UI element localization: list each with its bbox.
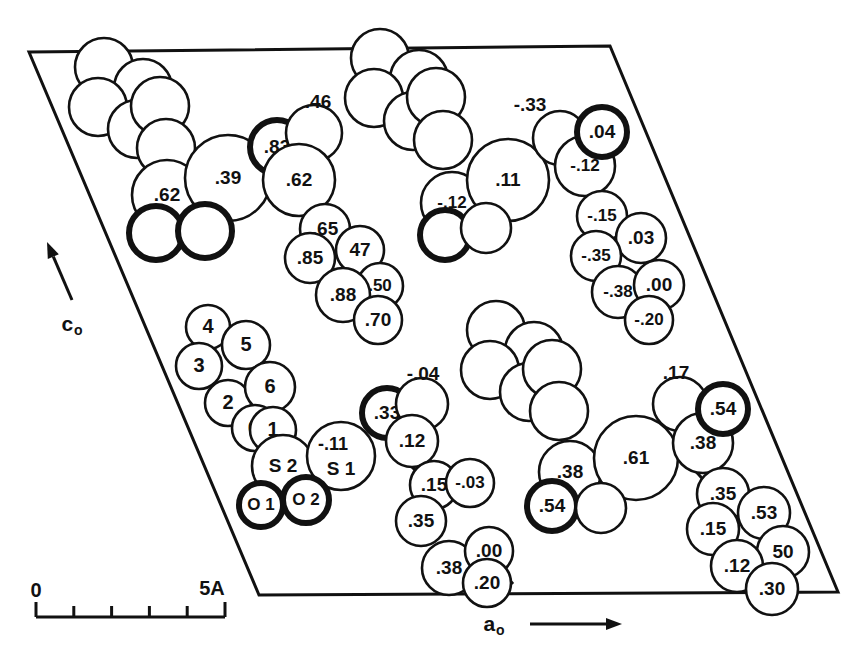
- atom-label: .03: [628, 227, 654, 248]
- atom-label: S 1: [327, 458, 356, 479]
- atom-label: .62: [154, 184, 180, 205]
- atom-label: .04: [589, 121, 616, 142]
- atom-label: .38: [557, 461, 583, 482]
- atom-a30: .04: [577, 107, 627, 157]
- atom-a41: 3: [176, 343, 222, 389]
- atom-label: O 2: [292, 490, 319, 509]
- atom-a38: -.20: [625, 296, 673, 344]
- a-axis-label: ao: [483, 612, 504, 638]
- atom-a09: [129, 206, 183, 260]
- atom-label: 6: [264, 375, 275, 397]
- atom-circle: [129, 206, 183, 260]
- atom-a10: [178, 204, 232, 258]
- atom-a77: .30: [746, 563, 798, 615]
- figure-root: .62.39.83.62.65.8547.50.88.70-.12.11-.12…: [0, 0, 864, 666]
- atom-circle: [576, 483, 626, 533]
- atom-label: .15: [700, 518, 727, 539]
- atom-label: -.15: [587, 206, 616, 225]
- atom-a49: O 2: [283, 477, 329, 523]
- atom-label: .62: [286, 169, 312, 190]
- atom-label: .38: [436, 557, 462, 578]
- atom-label: .61: [623, 447, 650, 468]
- atom-label: .88: [330, 284, 356, 305]
- atom-circle: [414, 111, 472, 169]
- atom-a71: [576, 483, 626, 533]
- atom-label: -.35: [581, 246, 610, 265]
- atom-label: S 2: [269, 455, 298, 476]
- atom-label: 5: [240, 333, 251, 355]
- height-label: -.04: [407, 363, 440, 384]
- atom-label: .15: [421, 474, 448, 495]
- atom-a25: [414, 111, 472, 169]
- atom-label: .35: [408, 510, 435, 531]
- a-axis-arrow: [530, 618, 622, 630]
- atom-circles: .62.39.83.62.65.8547.50.88.70-.12.11-.12…: [69, 29, 809, 615]
- atom-label: 47: [349, 239, 370, 260]
- height-label: .46: [305, 91, 331, 112]
- atom-circle: [461, 203, 511, 253]
- atom-a48: O 1: [239, 483, 283, 527]
- atom-label: .85: [297, 247, 324, 268]
- atom-label: .70: [365, 309, 391, 330]
- atom-label: -.20: [634, 310, 663, 329]
- atom-circle: [178, 204, 232, 258]
- atom-label: .53: [751, 502, 777, 523]
- atom-a54: -.03: [446, 459, 494, 507]
- atom-label: .38: [690, 432, 716, 453]
- atom-label: .12: [724, 555, 750, 576]
- c-axis-label: co: [61, 312, 82, 338]
- atom-label: 2: [222, 391, 233, 413]
- atom-label: O 1: [247, 495, 274, 514]
- atom-a58: .20: [463, 559, 511, 607]
- atom-label: -.12: [570, 156, 599, 175]
- atom-label: .50: [368, 276, 392, 295]
- atom-a55: .35: [396, 496, 446, 546]
- atom-a70: .54: [527, 481, 577, 531]
- atom-label: 3: [193, 354, 204, 376]
- atom-label: .11: [495, 169, 521, 190]
- atom-label: .20: [474, 572, 500, 593]
- atom-a32: [461, 203, 511, 253]
- height-label: -.33: [514, 94, 547, 115]
- scale-start-label: 0: [30, 579, 41, 601]
- scale-bar-group: 05A: [30, 577, 225, 617]
- atom-label-height: -.11: [318, 434, 348, 454]
- atom-label: .30: [759, 578, 785, 599]
- atom-label: .00: [646, 274, 672, 295]
- atom-a19: .70: [354, 296, 402, 344]
- atom-a69: .54: [698, 384, 748, 434]
- atom-label: -.03: [455, 473, 484, 492]
- scale-end-label: 5A: [199, 577, 225, 599]
- atom-a52: .12: [386, 415, 438, 467]
- atom-circle: [530, 382, 588, 440]
- atom-label: .12: [399, 430, 425, 451]
- scale-bar: 05A: [30, 577, 225, 617]
- structure-diagram: .62.39.83.62.65.8547.50.88.70-.12.11-.12…: [0, 0, 864, 666]
- atom-label: .54: [539, 495, 566, 516]
- atom-label: .54: [710, 398, 737, 419]
- atom-a34: .03: [616, 213, 666, 263]
- height-label: .17: [663, 362, 689, 383]
- atom-label: 4: [202, 315, 214, 337]
- c-axis-arrow: [47, 242, 72, 300]
- atom-label: .35: [710, 483, 737, 504]
- atom-label: 50: [772, 541, 793, 562]
- atom-label: .39: [215, 167, 241, 188]
- atom-a64: [530, 382, 588, 440]
- atom-label: -.38: [603, 282, 632, 301]
